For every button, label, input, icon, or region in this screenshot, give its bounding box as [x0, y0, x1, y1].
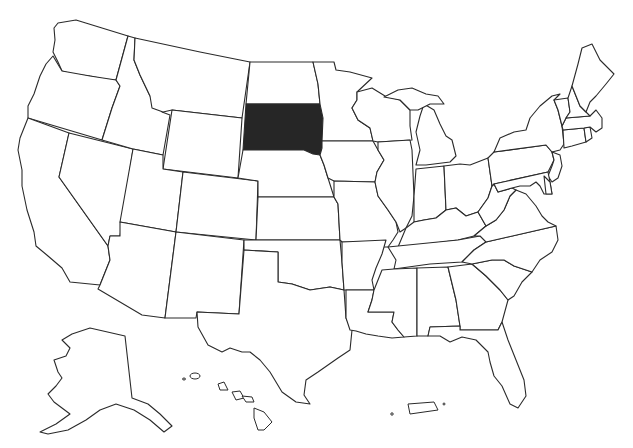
- state-maine[interactable]: [572, 44, 614, 112]
- state-rhode-island[interactable]: [584, 127, 592, 142]
- state-north-dakota[interactable]: [246, 62, 320, 104]
- territory-puerto-rico[interactable]: [391, 402, 445, 415]
- state-wyoming[interactable]: [163, 110, 242, 178]
- state-colorado[interactable]: [176, 172, 258, 240]
- state-florida[interactable]: [428, 322, 526, 408]
- state-michigan[interactable]: [416, 104, 456, 165]
- state-arizona[interactable]: [98, 222, 176, 318]
- us-states-map: [0, 0, 633, 448]
- state-hawaii[interactable]: [183, 373, 273, 430]
- state-south-dakota[interactable]: [243, 104, 323, 155]
- state-iowa[interactable]: [320, 141, 384, 182]
- state-connecticut[interactable]: [563, 128, 586, 148]
- state-alaska[interactable]: [40, 328, 172, 434]
- state-new-york[interactable]: [494, 94, 564, 152]
- state-kansas[interactable]: [256, 197, 340, 240]
- state-montana[interactable]: [134, 38, 250, 118]
- state-new-mexico[interactable]: [165, 232, 244, 318]
